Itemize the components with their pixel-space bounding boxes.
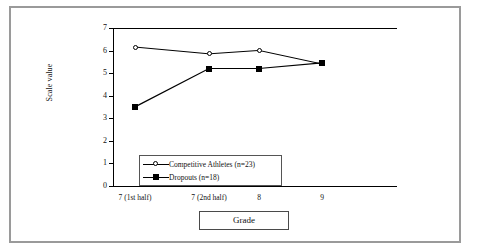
legend-marker-filled-square-icon: [143, 172, 169, 184]
legend-label-dropouts: Dropouts (n=18): [169, 172, 219, 184]
x-tick-label: 7 (1st half): [99, 193, 171, 202]
x-axis-line: [113, 186, 397, 187]
y-axis-tick-labels: 01234567: [91, 8, 107, 251]
chart-legend: Competitive Athletes (n=23) Dropouts (n=…: [139, 155, 282, 186]
y-tick-label: 7: [93, 24, 107, 32]
series-line-competitive-athletes: [135, 47, 322, 64]
y-tick-label: 3: [93, 114, 107, 122]
y-tick-label: 5: [93, 69, 107, 77]
data-point-marker: [319, 60, 325, 66]
data-point-marker: [132, 104, 138, 110]
y-tick-label: 2: [93, 137, 107, 145]
legend-item-dropouts: Dropouts (n=18): [143, 171, 278, 184]
x-axis-title-box: Grade: [199, 211, 289, 230]
y-tick-label: 6: [93, 47, 107, 55]
y-tick-label: 0: [93, 182, 107, 190]
data-point-marker: [133, 45, 138, 50]
x-axis-title: Grade: [200, 212, 288, 229]
figure-border: Scale value 01234567 7 (1st half)7 (2nd …: [9, 6, 461, 243]
data-point-marker: [207, 51, 212, 56]
y-tick-label: 4: [93, 92, 107, 100]
x-tick-label: 8: [223, 193, 295, 202]
data-point-marker: [206, 66, 212, 72]
y-tick-label: 1: [93, 159, 107, 167]
screenshot-root: Scale value 01234567 7 (1st half)7 (2nd …: [0, 0, 478, 251]
legend-item-competitive-athletes: Competitive Athletes (n=23): [143, 158, 278, 171]
y-axis-title: Scale value: [45, 43, 54, 123]
legend-marker-open-circle-icon: [143, 159, 169, 171]
x-tick-label: 9: [286, 193, 358, 202]
legend-label-competitive-athletes: Competitive Athletes (n=23): [169, 159, 255, 171]
data-point-marker: [256, 66, 262, 72]
data-point-marker: [257, 48, 262, 53]
series-line-dropouts: [135, 63, 322, 107]
